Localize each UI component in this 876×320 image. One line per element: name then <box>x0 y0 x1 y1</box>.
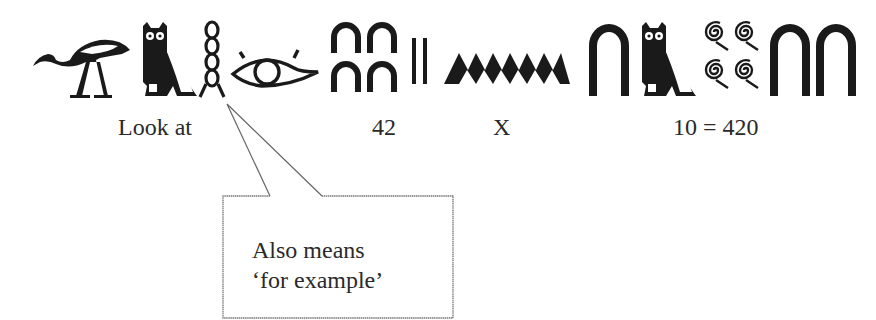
coil-hundred-icon <box>736 60 758 88</box>
heel-bone-ten-icon <box>334 64 358 92</box>
label-look-at: Look at <box>118 114 192 140</box>
eye-icon <box>233 50 318 86</box>
callout-pointer <box>227 104 322 196</box>
twisted-flax-icon <box>200 22 224 97</box>
hieroglyph-canvas <box>0 0 876 320</box>
heel-bone-ten-icon <box>370 25 394 53</box>
label-times: X <box>493 114 510 140</box>
heel-bone-ten-icon <box>370 64 394 92</box>
owl-icon <box>642 22 696 96</box>
heel-bone-ten-icon <box>820 28 852 96</box>
callout-line-1: Also means <box>252 235 365 265</box>
stroke-one-icon <box>423 38 427 84</box>
coil-hundred-icon <box>736 22 758 50</box>
heel-bone-ten-icon <box>774 28 806 96</box>
callout-line-2: ‘for example’ <box>252 265 383 295</box>
coil-hundred-icon <box>706 22 728 50</box>
water-ripple-icon <box>444 53 570 84</box>
label-forty-two: 42 <box>372 114 396 140</box>
stroke-one-icon <box>412 38 416 84</box>
ibis-icon <box>33 40 130 98</box>
heel-bone-ten-icon <box>593 28 625 96</box>
label-result: 10 = 420 <box>673 114 759 140</box>
coil-hundred-icon <box>706 60 728 88</box>
heel-bone-ten-icon <box>334 25 358 53</box>
owl-icon <box>143 22 197 96</box>
